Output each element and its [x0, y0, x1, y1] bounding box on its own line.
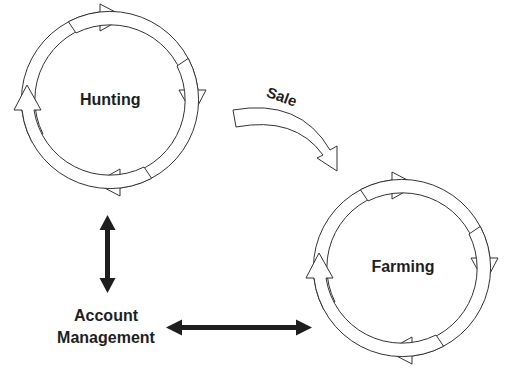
horizontal-double-arrow-icon [166, 320, 312, 336]
farming-label: Farming [370, 258, 436, 276]
sale-arrow-icon [233, 108, 337, 171]
vertical-double-arrow-icon [100, 215, 116, 293]
account-management-label: Account Management [45, 305, 167, 349]
hunting-label: Hunting [80, 91, 140, 109]
account-management-line2: Management [45, 327, 167, 349]
account-management-line1: Account [45, 305, 167, 327]
